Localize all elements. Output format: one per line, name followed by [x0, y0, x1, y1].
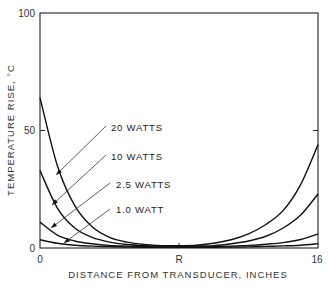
series-label-2-5-watts: 2.5 WATTS	[116, 179, 171, 190]
curve-20-watts	[40, 98, 318, 246]
x-tick-label-16: 16	[311, 254, 323, 265]
data-curves	[40, 98, 318, 248]
series-label-10-watts: 10 WATTS	[111, 151, 163, 162]
arrow-line-20-watts	[56, 126, 106, 175]
arrow-line-1-0-watt	[64, 209, 110, 243]
series-annotations	[51, 126, 110, 243]
arrowhead-icon	[51, 223, 57, 228]
y-tick-label-50: 50	[24, 125, 36, 136]
series-label-1-0-watt: 1.0 WATT	[116, 204, 164, 215]
chart: 100 50 0 0 R 16 DISTANCE FROM TRANSDUCER…	[0, 0, 328, 287]
x-tick-label-R: R	[175, 254, 182, 265]
y-tick-label-100: 100	[18, 8, 35, 19]
arrow-line-10-watts	[52, 155, 106, 205]
x-axis-title: DISTANCE FROM TRANSDUCER, INCHES	[68, 269, 288, 280]
y-tick-label-0: 0	[29, 243, 35, 254]
series-label-20-watts: 20 WATTS	[111, 122, 163, 133]
curve-10-watts	[40, 170, 318, 246]
x-tick-label-0: 0	[37, 254, 43, 265]
plot-frame	[40, 13, 318, 248]
arrow-line-2-5-watts	[51, 183, 110, 228]
y-axis-title: TEMPERATURE RISE, °C	[5, 64, 16, 196]
